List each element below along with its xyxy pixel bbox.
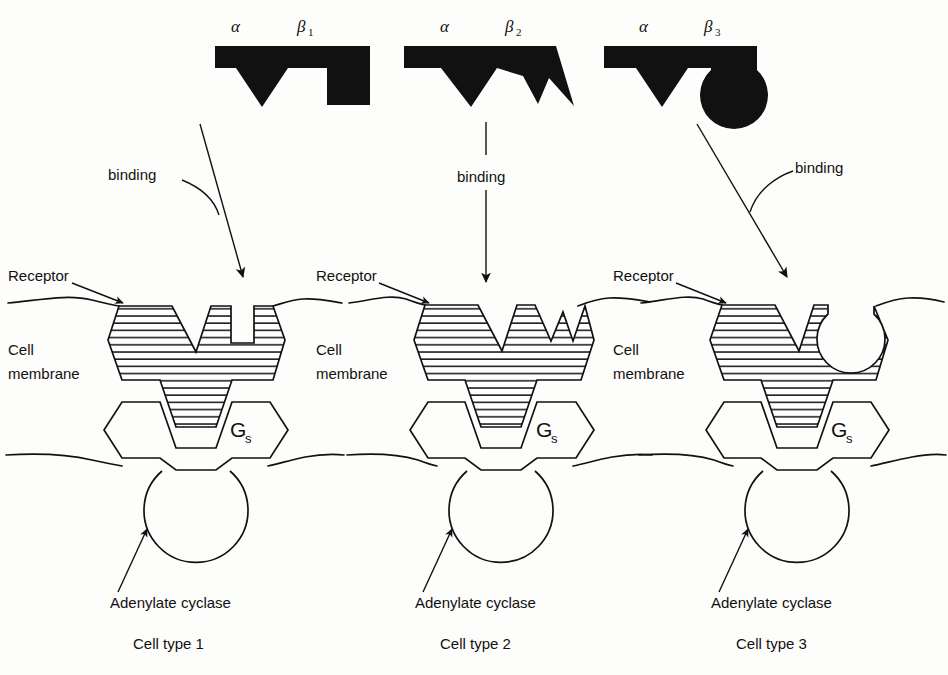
g-protein-2-sublabel: s: [551, 431, 558, 446]
binding-arrow-1: [200, 124, 243, 277]
panel-cell-type-1: α β 1 binding Receptor Cell membrane: [6, 17, 370, 652]
binding-label-1: binding: [108, 166, 156, 183]
g-protein-1-sublabel: s: [245, 431, 252, 446]
membrane-upper-right-2: [578, 298, 650, 306]
g-protein-2-label: G: [536, 418, 552, 441]
ligand-2-beta-label: β: [504, 17, 514, 36]
ligand-3-beta-subscript: 3: [715, 26, 721, 38]
adenylate-cyclase-1[interactable]: [144, 471, 248, 562]
panel-1-caption: Cell type 1: [133, 635, 204, 652]
adenylate-cyclase-1-shape: [144, 471, 248, 562]
panel-2-caption: Cell type 2: [440, 635, 511, 652]
adenylate-cyclase-2[interactable]: [449, 471, 553, 562]
ligand-3-shape: [604, 46, 768, 129]
cell-membrane-label-1-line2: membrane: [8, 365, 80, 382]
receptor-3-shape: [710, 305, 888, 427]
receptor-pointer-3: [676, 283, 726, 303]
membrane-upper-left-3: [641, 297, 722, 305]
receptor-2[interactable]: [414, 305, 594, 427]
figure-canvas: α β 1 binding Receptor Cell membrane: [0, 0, 948, 675]
ligand-3-alpha-label: α: [639, 17, 649, 36]
membrane-upper-left-1: [8, 297, 119, 306]
adenylate-cyclase-pointer-1: [118, 529, 147, 592]
ligand-2-shape: [404, 46, 574, 107]
binding-leader-1: [182, 180, 219, 215]
membrane-lower-right-1: [268, 454, 344, 466]
ligand-2[interactable]: [404, 46, 574, 107]
receptor-label-1: Receptor: [8, 267, 69, 284]
ligand-3[interactable]: [604, 46, 768, 129]
ligand-3-beta-label: β: [703, 17, 713, 36]
adenylate-cyclase-label-2: Adenylate cyclase: [415, 594, 536, 611]
adenylate-cyclase-2-shape: [449, 471, 553, 562]
receptor-label-3: Receptor: [613, 267, 674, 284]
binding-arrow-3: [697, 124, 787, 277]
membrane-upper-right-3: [876, 298, 944, 306]
receptor-3[interactable]: [710, 305, 888, 427]
membrane-lower-right-2: [573, 454, 652, 466]
cell-membrane-label-3-line1: Cell: [613, 341, 639, 358]
ligand-1-alpha-label: α: [231, 17, 241, 36]
receptor-pointer-1: [72, 283, 123, 303]
adenylate-cyclase-3-shape: [745, 471, 849, 562]
adenylate-cyclase-pointer-3: [719, 529, 748, 592]
membrane-upper-left-2: [349, 297, 425, 305]
g-protein-1-label: G: [230, 418, 246, 441]
membrane-lower-left-2: [347, 454, 437, 466]
panel-3-caption: Cell type 3: [736, 635, 807, 652]
binding-label-3: binding: [795, 159, 843, 176]
ligand-1-beta-subscript: 1: [308, 26, 314, 38]
cell-membrane-label-2-line1: Cell: [316, 341, 342, 358]
ligand-1-beta-label: β: [296, 17, 306, 36]
receptor-label-2: Receptor: [316, 267, 377, 284]
panel-cell-type-2: α β 2 binding Receptor Cell membrane: [316, 17, 652, 652]
cell-membrane-label-1-line1: Cell: [8, 341, 34, 358]
membrane-upper-right-1: [273, 299, 342, 306]
adenylate-cyclase-label-1: Adenylate cyclase: [110, 594, 231, 611]
membrane-lower-left-1: [6, 454, 122, 466]
ligand-2-beta-subscript: 2: [516, 26, 522, 38]
receptor-1[interactable]: [108, 306, 285, 427]
cell-membrane-label-3-line2: membrane: [613, 365, 685, 382]
binding-label-2: binding: [457, 168, 505, 185]
g-protein-3-sublabel: s: [846, 431, 853, 446]
receptor-pointer-2: [379, 283, 429, 303]
g-protein-3-label: G: [831, 418, 847, 441]
binding-leader-3: [750, 171, 793, 212]
cell-membrane-label-2-line2: membrane: [316, 365, 388, 382]
membrane-lower-right-3: [871, 454, 946, 466]
receptor-1-shape: [108, 306, 285, 427]
adenylate-cyclase-3[interactable]: [745, 471, 849, 562]
panel-cell-type-3: α β 3 binding Receptor Cell membrane: [604, 17, 946, 652]
adenylate-cyclase-pointer-2: [423, 529, 452, 592]
ligand-2-alpha-label: α: [440, 17, 450, 36]
ligand-1-shape: [215, 46, 370, 107]
ligand-1[interactable]: [215, 46, 370, 107]
adenylate-cyclase-label-3: Adenylate cyclase: [711, 594, 832, 611]
receptor-2-shape: [414, 305, 594, 427]
membrane-lower-left-3: [639, 454, 733, 466]
